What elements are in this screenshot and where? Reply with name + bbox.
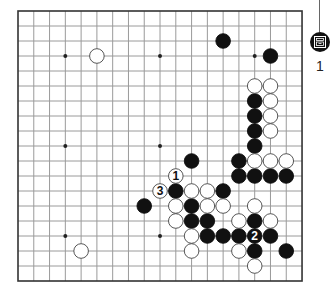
star-point bbox=[63, 54, 67, 58]
black-stone[interactable] bbox=[247, 109, 262, 124]
white-stone[interactable] bbox=[232, 214, 247, 229]
white-stone[interactable] bbox=[200, 184, 215, 199]
black-stone[interactable] bbox=[247, 169, 262, 184]
star-point bbox=[158, 144, 162, 148]
white-stone[interactable] bbox=[232, 244, 247, 259]
black-stone[interactable] bbox=[169, 184, 184, 199]
move-number-label: 3 bbox=[157, 184, 164, 198]
white-stone[interactable]: 3 bbox=[153, 184, 168, 199]
black-stone[interactable] bbox=[247, 244, 262, 259]
move-number-label: 2 bbox=[251, 229, 258, 243]
black-stone[interactable] bbox=[247, 139, 262, 154]
white-stone[interactable] bbox=[247, 259, 262, 274]
white-stone[interactable] bbox=[247, 79, 262, 94]
side-panel-number: 1 bbox=[310, 58, 330, 74]
white-stone[interactable] bbox=[263, 94, 278, 109]
star-point bbox=[63, 144, 67, 148]
white-stone[interactable] bbox=[247, 199, 262, 214]
white-stone[interactable] bbox=[247, 154, 262, 169]
white-stone[interactable] bbox=[200, 199, 215, 214]
move-number-label: 1 bbox=[172, 169, 179, 183]
white-stone[interactable] bbox=[74, 244, 89, 259]
black-stone[interactable] bbox=[216, 229, 231, 244]
black-stone[interactable] bbox=[232, 229, 247, 244]
black-stone[interactable] bbox=[184, 214, 199, 229]
white-stone[interactable] bbox=[263, 214, 278, 229]
white-stone[interactable]: 1 bbox=[169, 169, 184, 184]
white-stone[interactable] bbox=[263, 109, 278, 124]
star-point bbox=[63, 234, 67, 238]
black-stone[interactable]: 2 bbox=[247, 229, 262, 244]
black-stone[interactable] bbox=[216, 184, 231, 199]
black-stone[interactable] bbox=[200, 214, 215, 229]
black-stone[interactable] bbox=[247, 94, 262, 109]
white-stone[interactable] bbox=[279, 154, 294, 169]
white-stone[interactable] bbox=[90, 49, 105, 64]
star-point bbox=[158, 234, 162, 238]
black-stone[interactable] bbox=[232, 154, 247, 169]
black-stone[interactable] bbox=[247, 124, 262, 139]
black-stone[interactable] bbox=[216, 34, 231, 49]
go-board[interactable]: 213 bbox=[0, 0, 310, 293]
black-stone[interactable] bbox=[200, 229, 215, 244]
white-stone[interactable] bbox=[169, 214, 184, 229]
white-stone[interactable] bbox=[263, 154, 278, 169]
side-divider-line bbox=[319, 0, 320, 32]
black-stone[interactable] bbox=[263, 169, 278, 184]
white-stone[interactable] bbox=[184, 184, 199, 199]
black-stone[interactable] bbox=[263, 229, 278, 244]
black-stone[interactable] bbox=[263, 49, 278, 64]
stones-layer: 213 bbox=[74, 34, 294, 274]
star-point bbox=[253, 54, 257, 58]
black-stone[interactable] bbox=[184, 199, 199, 214]
white-stone[interactable] bbox=[184, 229, 199, 244]
scroll-maze-icon[interactable] bbox=[310, 32, 330, 52]
white-stone[interactable] bbox=[263, 79, 278, 94]
white-stone[interactable] bbox=[263, 124, 278, 139]
black-stone[interactable] bbox=[279, 244, 294, 259]
black-stone[interactable] bbox=[247, 214, 262, 229]
white-stone[interactable] bbox=[169, 199, 184, 214]
black-stone[interactable] bbox=[279, 169, 294, 184]
star-point bbox=[158, 54, 162, 58]
white-stone[interactable] bbox=[216, 199, 231, 214]
black-stone[interactable] bbox=[137, 199, 152, 214]
white-stone[interactable] bbox=[184, 244, 199, 259]
black-stone[interactable] bbox=[232, 169, 247, 184]
black-stone[interactable] bbox=[184, 154, 199, 169]
